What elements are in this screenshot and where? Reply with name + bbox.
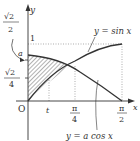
y-axis-label: y <box>29 5 36 15</box>
origin-label: O <box>18 104 25 114</box>
label-sqrt2-4-num: √2 <box>5 68 15 77</box>
label-one: 1 <box>30 34 35 43</box>
pointer-arrow-head-icon <box>20 58 25 63</box>
label-a: a <box>18 49 23 58</box>
label-pi2-num: π <box>119 104 124 113</box>
label-sqrt2-2-den: 2 <box>8 25 13 34</box>
label-pi4-den: 4 <box>72 115 77 124</box>
sin-curve-label: y = sin x <box>93 26 132 36</box>
label-pi2-den: 2 <box>119 115 124 124</box>
acos-leader <box>96 80 98 130</box>
label-pi4-num: π <box>72 104 77 113</box>
label-t: t <box>46 106 50 115</box>
x-axis-label: x <box>133 103 138 112</box>
sin-leader <box>88 37 95 52</box>
label-sqrt2-2-num: √2 <box>4 12 14 21</box>
graph-figure: y √2 2 1 a √2 4 O t π 4 π 2 x y = sin x … <box>0 0 140 141</box>
label-sqrt2-4-den: 4 <box>9 80 14 89</box>
acos-curve-label: y = a cos x <box>65 131 113 141</box>
